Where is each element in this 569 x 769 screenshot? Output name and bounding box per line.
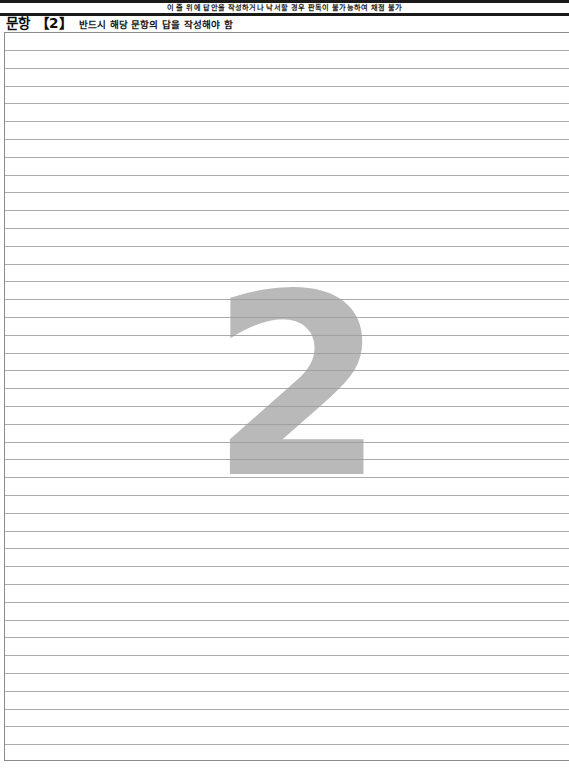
answer-sheet-page: 이 줄 위에 답안을 작성하거나 낙서할 경우 판독이 불가능하여 채점 불가 … <box>0 0 569 769</box>
question-instruction: 반드시 해당 문항의 답을 작성해야 함 <box>79 17 233 32</box>
question-title-row: 문항 【2】 반드시 해당 문항의 답을 작성해야 함 <box>0 16 569 31</box>
answer-writing-area[interactable]: 2 <box>4 32 569 761</box>
warning-notice-text: 이 줄 위에 답안을 작성하거나 낙서할 경우 판독이 불가능하여 채점 불가 <box>167 3 403 13</box>
question-label: 문항 【2】 <box>6 16 72 31</box>
warning-notice-band: 이 줄 위에 답안을 작성하거나 낙서할 경우 판독이 불가능하여 채점 불가 <box>0 3 569 13</box>
answer-input-surface[interactable] <box>5 33 569 760</box>
